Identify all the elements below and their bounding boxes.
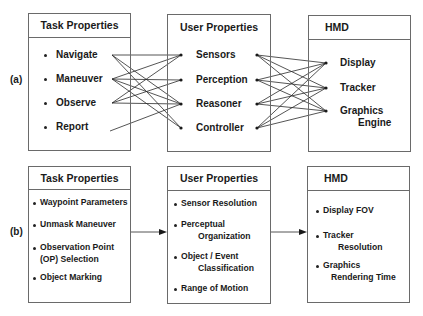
- bullet-icon: [44, 54, 47, 57]
- bullet-icon: [44, 126, 47, 129]
- bullet-icon: [44, 78, 47, 81]
- user-item-object-event: Object / Event: [181, 251, 238, 261]
- diagram: (a) Task Properties Navigate Maneuver Ob…: [0, 0, 423, 316]
- task-properties-title-b: Task Properties: [29, 167, 130, 190]
- hmd-item-engine: Engine: [358, 117, 391, 128]
- bullet-icon: [174, 224, 177, 227]
- bullet-icon: [174, 256, 177, 259]
- bullet-icon: [174, 203, 177, 206]
- user-item-range-of-motion: Range of Motion: [181, 283, 248, 293]
- hmd-item-graphics: Graphics: [340, 105, 383, 116]
- user-item-perceptual: Perceptual: [181, 219, 225, 229]
- bullet-icon: [33, 224, 36, 227]
- hmd-title-b: HMD: [308, 167, 409, 191]
- user-item-sensors: Sensors: [196, 49, 235, 60]
- task-item-observation-point: Observation Point: [40, 242, 114, 252]
- arrow-head-icon: [159, 229, 167, 235]
- user-item-perception: Perception: [196, 74, 248, 85]
- arrow-head-icon: [299, 229, 307, 235]
- bullet-icon: [316, 235, 319, 238]
- task-item-report: Report: [56, 121, 88, 132]
- bullet-icon: [44, 102, 47, 105]
- task-item-object-marking: Object Marking: [40, 272, 102, 282]
- bullet-icon: [33, 277, 36, 280]
- task-item-maneuver: Maneuver: [56, 73, 103, 84]
- bullet-icon: [33, 247, 36, 250]
- user-item-controller: Controller: [196, 122, 244, 133]
- panel-label-a: (a): [10, 74, 22, 85]
- task-item-observe: Observe: [56, 97, 96, 108]
- bullet-icon: [316, 210, 319, 213]
- hmd-title-a: HMD: [309, 16, 410, 40]
- bullet-icon: [174, 288, 177, 291]
- hmd-item-tracker: Tracker: [340, 82, 376, 93]
- user-item-reasoner: Reasoner: [196, 98, 242, 109]
- task-item-unmask-maneuver: Unmask Maneuver: [40, 219, 116, 229]
- bullet-icon: [33, 202, 36, 205]
- task-properties-title-a: Task Properties: [29, 14, 130, 38]
- user-item-organization: Organization: [198, 231, 251, 241]
- user-properties-title-a: User Properties: [168, 15, 270, 39]
- hmd-item-display-fov: Display FOV: [323, 205, 374, 215]
- hmd-item-rendering-time: Rendering Time: [331, 272, 396, 282]
- user-item-sensor-resolution: Sensor Resolution: [181, 198, 257, 208]
- task-properties-box-b: Task Properties: [28, 166, 131, 303]
- task-item-navigate: Navigate: [56, 49, 98, 60]
- task-item-waypoint-parameters: Waypoint Parameters: [40, 197, 128, 207]
- hmd-item-resolution: Resolution: [338, 242, 382, 252]
- user-item-classification: Classification: [198, 263, 254, 273]
- hmd-item-graphics: Graphics: [323, 260, 360, 270]
- user-properties-title-b: User Properties: [168, 167, 270, 191]
- task-item-op-selection: (OP) Selection: [40, 254, 99, 264]
- bullet-icon: [316, 265, 319, 268]
- hmd-item-tracker: Tracker: [323, 230, 354, 240]
- panel-label-b: (b): [10, 226, 23, 237]
- hmd-item-display: Display: [340, 57, 376, 68]
